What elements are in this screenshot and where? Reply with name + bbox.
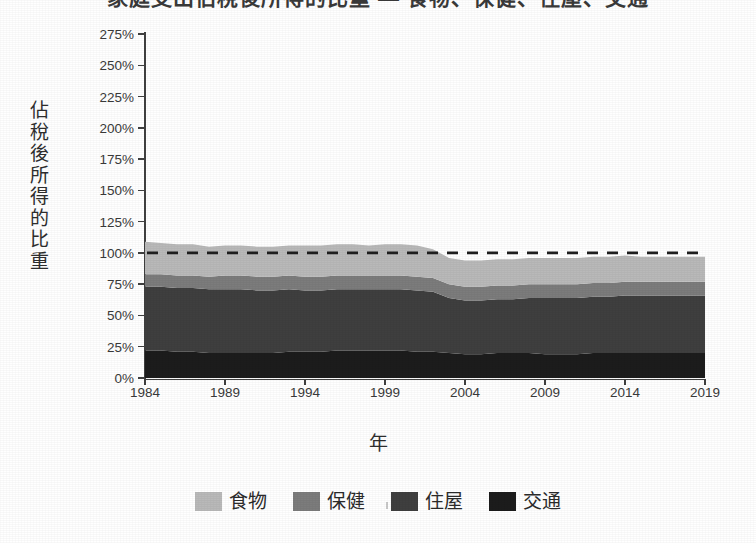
y-tick-label: 100% [76, 245, 134, 260]
x-tick-label: 1984 [115, 385, 175, 400]
chart-title: 家庭支出佔稅後所得的比重 — 食物、保健、住屋、交通 [0, 0, 756, 11]
y-tick [138, 65, 145, 66]
y-tick-label: 150% [76, 183, 134, 198]
legend-item-label: 保健 [327, 492, 365, 511]
legend-swatch-icon [489, 492, 516, 511]
y-tick-label: 275% [76, 27, 134, 42]
y-tick-label: 250% [76, 58, 134, 73]
y-axis-title-char: 稅 [24, 122, 54, 144]
y-tick [138, 127, 145, 128]
legend-item-住屋[interactable]: 住屋 [391, 492, 463, 511]
x-tick-label: 2009 [515, 385, 575, 400]
y-axis-title-char: 得 [24, 186, 54, 208]
legend-swatch-icon [391, 492, 418, 511]
x-tick-label: 1999 [355, 385, 415, 400]
scan-artifact [386, 502, 388, 509]
y-tick-label: 25% [76, 339, 134, 354]
y-axis-title-char: 佔 [24, 100, 54, 122]
y-axis-title-char: 比 [24, 229, 54, 251]
legend-swatch-icon [293, 492, 320, 511]
y-tick-label: 175% [76, 152, 134, 167]
y-tick [138, 190, 145, 191]
y-tick [138, 315, 145, 316]
chart-figure: 家庭支出佔稅後所得的比重 — 食物、保健、住屋、交通 佔稅後所得的比重 0%25… [0, 0, 756, 543]
legend-swatch-icon [195, 492, 222, 511]
x-tick-label: 2004 [435, 385, 495, 400]
y-axis-title: 佔稅後所得的比重 [24, 100, 54, 272]
y-tick [138, 252, 145, 253]
legend-item-保健[interactable]: 保健 [293, 492, 365, 511]
y-tick [138, 33, 145, 34]
y-axis-title-char: 所 [24, 165, 54, 187]
legend-item-label: 住屋 [425, 492, 463, 511]
area-series-交通 [145, 350, 705, 378]
legend-item-label: 交通 [523, 492, 561, 511]
y-axis-title-char: 重 [24, 251, 54, 273]
y-tick-label: 0% [76, 371, 134, 386]
x-axis-line [144, 379, 706, 381]
y-tick [138, 96, 145, 97]
area-series-住屋 [145, 287, 705, 355]
y-tick [138, 283, 145, 284]
x-tick-label: 1994 [275, 385, 335, 400]
legend-item-交通[interactable]: 交通 [489, 492, 561, 511]
x-tick-label: 2014 [595, 385, 655, 400]
y-tick [138, 346, 145, 347]
y-tick-label: 125% [76, 214, 134, 229]
chart-legend: 食物保健住屋交通 [0, 492, 756, 511]
chart-title-cropped: 家庭支出佔稅後所得的比重 — 食物、保健、住屋、交通 [0, 0, 756, 11]
plot-area [145, 34, 705, 378]
stacked-area-plot [145, 34, 705, 378]
y-tick [138, 221, 145, 222]
y-tick-label: 75% [76, 277, 134, 292]
x-tick-label: 2019 [675, 385, 735, 400]
y-axis-title-char: 的 [24, 208, 54, 230]
y-tick-label: 50% [76, 308, 134, 323]
legend-item-label: 食物 [229, 492, 267, 511]
y-tick-label: 225% [76, 89, 134, 104]
y-axis-title-char: 後 [24, 143, 54, 165]
y-tick [138, 158, 145, 159]
x-tick-label: 1989 [195, 385, 255, 400]
x-axis-title: 年 [0, 428, 756, 455]
y-tick-label: 200% [76, 120, 134, 135]
legend-item-食物[interactable]: 食物 [195, 492, 267, 511]
